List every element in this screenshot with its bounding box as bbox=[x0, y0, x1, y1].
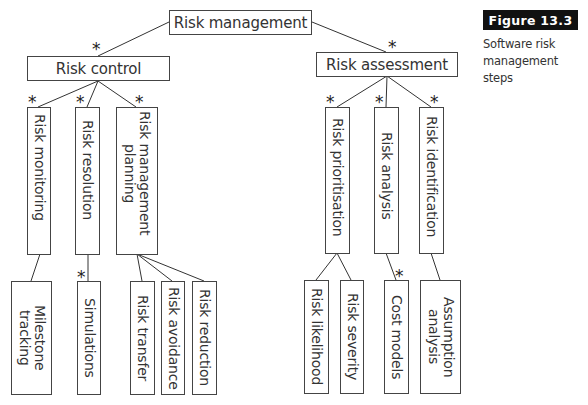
node-label: Risk assessment bbox=[326, 56, 448, 74]
node-risk-assessment: Risk assessment bbox=[316, 52, 458, 77]
node-label: Risk transfer bbox=[135, 295, 150, 381]
node-cost-models: Cost models bbox=[384, 280, 409, 394]
figure-caption: Software risk management steps bbox=[483, 36, 588, 87]
multiplicity-star-icon: * bbox=[430, 94, 439, 111]
multiplicity-star-icon: * bbox=[395, 268, 404, 285]
node-simulations: Simulations bbox=[77, 281, 101, 395]
node-risk-transfer: Risk transfer bbox=[130, 281, 155, 395]
node-label: Simulations bbox=[82, 298, 97, 378]
node-label: Risk management bbox=[174, 14, 307, 32]
node-milestone-tracking: Milestone tracking bbox=[11, 281, 52, 395]
node-label: Risk severity bbox=[345, 293, 360, 380]
node-label: Risk identification bbox=[424, 116, 439, 237]
node-risk-analysis: Risk analysis bbox=[374, 107, 399, 254]
node-risk-monitoring: Risk monitoring bbox=[27, 107, 51, 255]
risk-management-diagram: Risk management Risk control Risk assess… bbox=[0, 0, 588, 405]
node-label: Assumption analysis bbox=[426, 297, 456, 377]
multiplicity-star-icon: * bbox=[77, 269, 86, 286]
node-risk-severity: Risk severity bbox=[340, 280, 364, 394]
node-label: Risk reduction bbox=[197, 289, 212, 386]
node-risk-resolution: Risk resolution bbox=[75, 107, 100, 255]
node-label: Risk control bbox=[56, 60, 141, 78]
node-risk-control: Risk control bbox=[27, 56, 170, 81]
node-risk-likelihood: Risk likelihood bbox=[304, 280, 329, 394]
node-label: Risk likelihood bbox=[309, 288, 324, 385]
node-risk-reduction: Risk reduction bbox=[192, 281, 217, 395]
multiplicity-star-icon: * bbox=[135, 94, 144, 111]
node-label: Risk management planning bbox=[122, 111, 152, 235]
node-label: Risk monitoring bbox=[32, 114, 47, 221]
node-assumption-analysis: Assumption analysis bbox=[420, 280, 461, 394]
node-risk-management: Risk management bbox=[169, 10, 312, 35]
node-label: Risk analysis bbox=[379, 132, 394, 220]
multiplicity-star-icon: * bbox=[375, 94, 384, 111]
multiplicity-star-icon: * bbox=[92, 41, 101, 58]
node-label: Milestone tracking bbox=[17, 305, 47, 371]
multiplicity-star-icon: * bbox=[388, 39, 397, 56]
node-risk-identification: Risk identification bbox=[419, 107, 444, 254]
node-label: Risk prioritisation bbox=[330, 118, 345, 236]
node-risk-prioritisation: Risk prioritisation bbox=[325, 107, 350, 254]
node-label: Cost models bbox=[389, 295, 404, 379]
multiplicity-star-icon: * bbox=[326, 94, 335, 111]
node-label: Risk resolution bbox=[80, 120, 95, 220]
figure-number-badge: Figure 13.3 bbox=[483, 10, 578, 30]
multiplicity-star-icon: * bbox=[28, 94, 37, 111]
node-risk-management-planning: Risk management planning bbox=[116, 107, 158, 255]
multiplicity-star-icon: * bbox=[76, 94, 85, 111]
node-risk-avoidance: Risk avoidance bbox=[161, 281, 185, 395]
node-label: Risk avoidance bbox=[166, 287, 181, 390]
